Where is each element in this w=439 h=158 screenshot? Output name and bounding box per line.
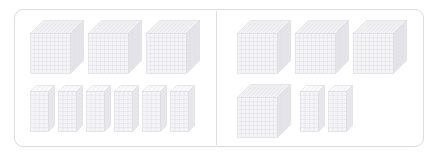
thousand-cube-block [237, 20, 292, 75]
thousand-cube-block [295, 20, 350, 75]
thousand-cube-block [237, 84, 292, 139]
figure-canvas: UU [0, 0, 439, 158]
thousand-cube-block [353, 20, 408, 75]
hundred-flat-block [114, 85, 140, 133]
hundred-flat-block [142, 85, 168, 133]
thousand-cube-block [30, 20, 85, 75]
hundred-flat-block [170, 85, 196, 133]
thousand-cube-block [88, 20, 143, 75]
thousand-cube-block [146, 20, 201, 75]
hundred-flat-block [30, 85, 56, 133]
hundred-flat-block [58, 85, 84, 133]
hundred-flat-block [328, 85, 354, 133]
hundred-flat-block [300, 85, 326, 133]
hundred-flat-block [86, 85, 112, 133]
